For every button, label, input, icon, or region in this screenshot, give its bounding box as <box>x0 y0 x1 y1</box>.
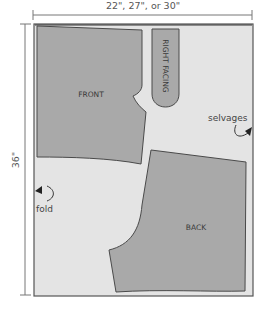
length-label: 36" <box>10 152 21 168</box>
front-label: FRONT <box>78 90 104 99</box>
length-dimension: 36" <box>10 24 31 295</box>
right-facing-piece: RIGHT FACING <box>152 29 179 107</box>
selvages-label: selvages <box>208 113 248 123</box>
right-facing-label: RIGHT FACING <box>161 39 170 93</box>
front-piece: FRONT <box>37 26 146 164</box>
pattern-layout-diagram: 22", 27", or 30" 36" FRONT RIGHT FACING … <box>0 0 260 309</box>
back-label: BACK <box>186 223 207 232</box>
width-dimension: 22", 27", or 30" <box>33 0 252 20</box>
fold-label: fold <box>36 204 53 214</box>
width-label: 22", 27", or 30" <box>106 0 180 11</box>
